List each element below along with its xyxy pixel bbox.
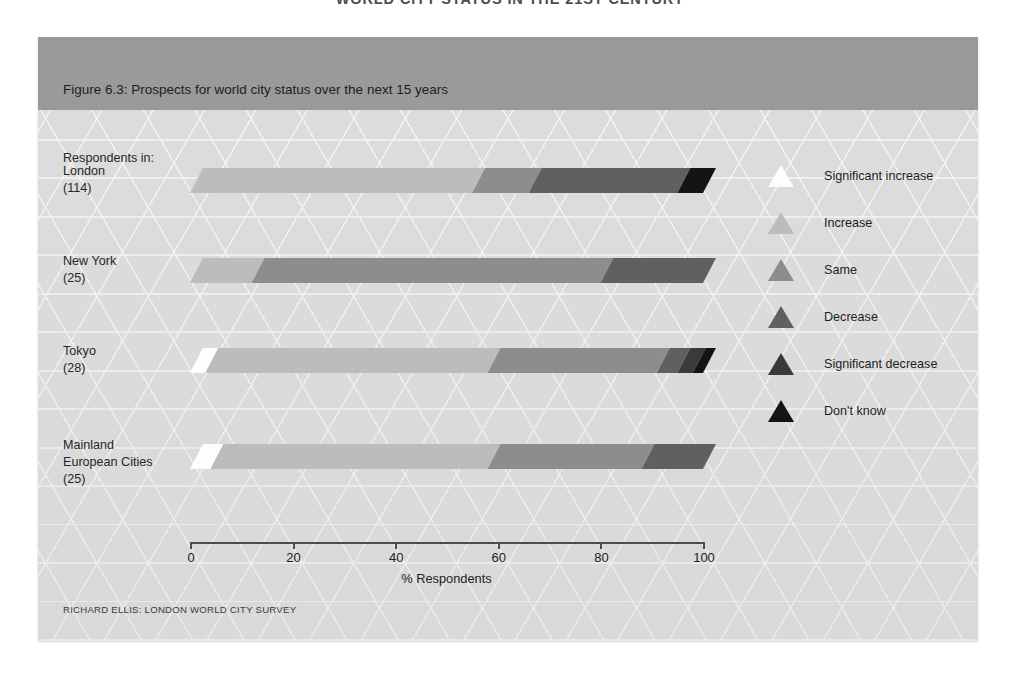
legend-triangle-icon: [768, 306, 794, 328]
legend-triangle-icon: [768, 400, 794, 422]
x-axis-tick-label: 100: [693, 550, 715, 565]
x-axis-tick-label: 40: [389, 550, 403, 565]
legend-label: Decrease: [824, 310, 878, 324]
x-axis-tick-label: 20: [286, 550, 300, 565]
x-axis-line: [190, 542, 703, 544]
legend-item: Significant decrease: [768, 348, 973, 395]
legend-item: Significant increase: [768, 160, 973, 207]
legend-label: Same: [824, 263, 857, 277]
bar-segment-increase: [190, 168, 485, 193]
category-sample-size: (25): [63, 471, 153, 488]
legend-triangle-icon: [768, 259, 794, 281]
legend-triangle-icon: [768, 212, 794, 234]
x-axis-tick: [600, 542, 602, 549]
source-credit: RICHARD ELLIS: LONDON WORLD CITY SURVEY: [63, 604, 296, 615]
x-axis-tick: [703, 542, 705, 549]
legend-label: Significant decrease: [824, 357, 937, 371]
legend-item: Don't know: [768, 395, 973, 442]
x-axis-tick: [293, 542, 295, 549]
x-axis-tick-label: 80: [594, 550, 608, 565]
bar-segment-decrease: [529, 168, 691, 193]
bar-segment-same: [252, 258, 614, 283]
x-axis-title: % Respondents: [190, 571, 703, 586]
legend-triangle-icon: [768, 165, 794, 187]
bar-segment-same: [488, 444, 655, 469]
bar-segment-decrease: [641, 444, 716, 469]
bar-segment-decrease: [600, 258, 716, 283]
legend-item: Same: [768, 254, 973, 301]
stacked-bar: [38, 444, 978, 469]
legend-item: Decrease: [768, 301, 973, 348]
x-axis-tick: [190, 542, 192, 549]
legend-label: Significant increase: [824, 169, 933, 183]
legend-triangle-icon: [768, 353, 794, 375]
bar-segment-same: [488, 348, 670, 373]
legend-item: Increase: [768, 207, 973, 254]
x-axis-tick-label: 60: [492, 550, 506, 565]
legend-label: Don't know: [824, 404, 886, 418]
page-headline: WORLD CITY STATUS IN THE 21ST CENTURY: [0, 0, 1020, 9]
bar-segment-increase: [211, 444, 501, 469]
bar-segment-increase: [190, 258, 265, 283]
legend-label: Increase: [824, 216, 872, 230]
x-axis-tick-label: 0: [187, 550, 194, 565]
screenshot-root: WORLD CITY STATUS IN THE 21ST CENTURY Fi…: [0, 0, 1020, 684]
legend: Significant increaseIncreaseSameDecrease…: [768, 160, 973, 442]
bar-segment-increase: [205, 348, 500, 373]
figure-panel: Figure 6.3: Prospects for world city sta…: [38, 37, 978, 641]
x-axis-tick: [498, 542, 500, 549]
x-axis-tick: [395, 542, 397, 549]
